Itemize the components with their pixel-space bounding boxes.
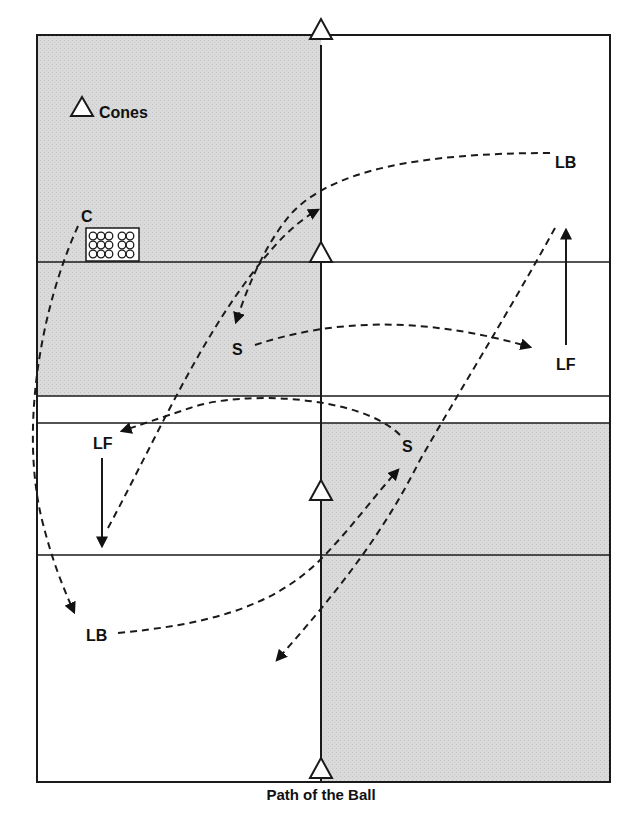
balls xyxy=(89,232,134,258)
shaded-zone-top-left xyxy=(37,35,321,396)
drill-diagram: Cones C LB LF S LF S xyxy=(0,0,640,819)
player-label-coach: C xyxy=(81,208,93,225)
cone-icon xyxy=(310,19,332,39)
legend-label: Cones xyxy=(99,104,148,121)
shaded-zone-bottom-right xyxy=(321,423,610,782)
ball-box xyxy=(86,228,139,261)
shaded-zones xyxy=(37,35,610,782)
player-label-lb-top: LB xyxy=(555,154,576,171)
player-label-lf-left: LF xyxy=(93,435,113,452)
diagram-caption: Path of the Ball xyxy=(266,786,375,803)
player-label-s-upper: S xyxy=(232,341,243,358)
player-label-lf-right: LF xyxy=(556,356,576,373)
player-label-lb-bottom: LB xyxy=(86,627,107,644)
player-label-s-lower: S xyxy=(402,438,413,455)
